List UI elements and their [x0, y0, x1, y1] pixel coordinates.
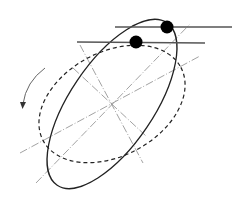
dashed-ellipse-axes: [20, 45, 200, 163]
solid-minor-axis: [73, 68, 146, 136]
dashed-major-axis: [20, 56, 200, 153]
rotation-arrow-arc: [23, 68, 45, 104]
ellipse-rotation-diagram: [0, 0, 249, 200]
contact-dot-upper: [161, 21, 174, 34]
solid-ellipse: [22, 0, 201, 200]
rotation-arrow: [20, 68, 45, 109]
contact-dot-lower: [130, 36, 143, 49]
rotation-arrow-head-icon: [20, 102, 26, 109]
